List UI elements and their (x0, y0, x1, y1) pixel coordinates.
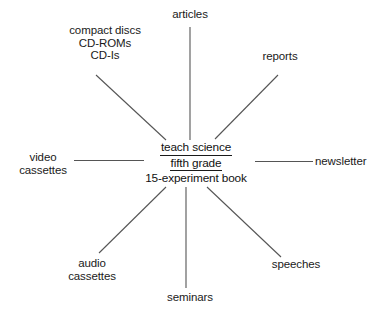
node-seminars-label: seminars (152, 291, 228, 304)
node-compact-discs: compact discs CD-ROMs CD-Is (52, 24, 158, 62)
node-audio-cassettes: audio cassettes (54, 257, 130, 282)
center-line-2-text: fifth grade (170, 156, 223, 172)
center-line-3: 15-experiment book (118, 171, 274, 185)
node-reports: reports (244, 50, 316, 63)
concept-map-canvas: teach science fifth grade 15-experiment … (0, 0, 390, 325)
node-video-cassettes: video cassettes (10, 151, 76, 176)
node-video-cassettes-label-2: cassettes (10, 164, 76, 177)
center-line-1-text: teach science (160, 140, 232, 156)
connector-audio-cassettes (99, 187, 166, 253)
node-compact-discs-label-3: CD-Is (52, 49, 158, 62)
node-articles: articles (152, 8, 228, 21)
node-seminars: seminars (152, 291, 228, 304)
node-compact-discs-label-2: CD-ROMs (52, 37, 158, 50)
center-line-1: teach science (118, 140, 274, 156)
node-reports-label: reports (244, 50, 316, 63)
node-audio-cassettes-label-1: audio (54, 257, 130, 270)
node-audio-cassettes-label-2: cassettes (54, 270, 130, 283)
connector-compact-discs (96, 75, 166, 140)
connector-speeches (207, 187, 281, 257)
node-compact-discs-label-1: compact discs (52, 24, 158, 37)
node-speeches: speeches (258, 258, 334, 271)
center-line-2: fifth grade (118, 156, 274, 172)
node-newsletter: newsletter (315, 155, 387, 168)
node-video-cassettes-label-1: video (10, 151, 76, 164)
node-speeches-label: speeches (258, 258, 334, 271)
node-newsletter-label: newsletter (315, 155, 387, 168)
center-line-3-text: 15-experiment book (144, 171, 248, 185)
connector-reports (215, 75, 278, 139)
node-articles-label: articles (152, 8, 228, 21)
center-node: teach science fifth grade 15-experiment … (118, 140, 274, 185)
